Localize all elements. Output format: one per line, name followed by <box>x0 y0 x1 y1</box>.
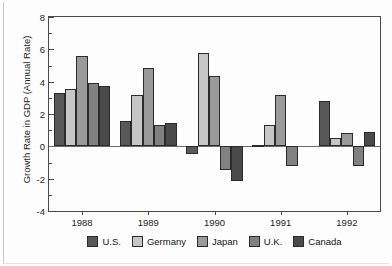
y-tick-minor <box>49 163 52 164</box>
legend-label: U.S. <box>102 236 120 247</box>
y-tick-minor <box>49 33 52 34</box>
y-tick-label: 6 <box>40 44 45 55</box>
legend-label: Germany <box>147 236 186 247</box>
bar <box>76 56 87 147</box>
y-tick-minor <box>49 66 52 67</box>
x-tick-label: 1991 <box>270 217 291 228</box>
bar <box>231 146 242 181</box>
x-tick <box>148 211 149 215</box>
bar <box>275 95 286 146</box>
x-tick <box>215 211 216 215</box>
bar <box>154 125 165 147</box>
legend-item-u-k[interactable]: U.K. <box>249 236 282 247</box>
legend-swatch-icon <box>132 236 143 247</box>
bar <box>120 121 131 146</box>
plot-area: -4-202468 19881989199019911992 <box>48 16 381 212</box>
x-tick-label: 1989 <box>138 217 159 228</box>
legend-item-canada[interactable]: Canada <box>293 236 341 247</box>
scan-left-rule <box>3 2 4 264</box>
y-tick-minor <box>49 195 52 196</box>
y-tick-minor <box>49 98 52 99</box>
clipped-page-text <box>18 0 318 9</box>
figure-container: Growth Rate in GDP (Annual Rate) -4-2024… <box>0 0 392 266</box>
legend-item-japan[interactable]: Japan <box>197 236 238 247</box>
x-tick-label: 1988 <box>72 217 93 228</box>
zero-baseline <box>49 146 380 147</box>
bar <box>286 146 297 165</box>
legend-item-u-s[interactable]: U.S. <box>87 236 120 247</box>
y-tick: 4 <box>49 82 54 83</box>
legend-swatch-icon <box>249 236 260 247</box>
bar <box>186 146 197 154</box>
x-tick <box>281 211 282 215</box>
bar <box>54 93 65 146</box>
bar <box>264 125 275 146</box>
legend-swatch-icon <box>197 236 208 247</box>
x-tick-label: 1992 <box>336 217 357 228</box>
y-axis-label: Growth Rate in GDP (Annual Rate) <box>21 10 32 210</box>
legend-label: Canada <box>308 236 341 247</box>
y-tick: 6 <box>49 49 54 50</box>
bar <box>252 145 263 147</box>
chart-legend: U.S.GermanyJapanU.K.Canada <box>48 236 381 247</box>
legend-swatch-icon <box>293 236 304 247</box>
y-tick: -2 <box>49 179 54 180</box>
bar <box>88 83 99 146</box>
y-tick-label: -2 <box>37 173 45 184</box>
bar <box>99 86 110 147</box>
y-tick-label: -4 <box>37 206 45 217</box>
y-tick: 8 <box>49 17 54 18</box>
bar <box>198 53 209 147</box>
x-tick <box>347 211 348 215</box>
bar <box>209 76 220 146</box>
bar <box>131 95 142 147</box>
legend-label: U.K. <box>264 236 282 247</box>
bar <box>330 138 341 146</box>
scan-bottom-rule <box>3 263 389 264</box>
x-tick <box>82 211 83 215</box>
y-tick-label: 8 <box>40 12 45 23</box>
x-tick-label: 1990 <box>204 217 225 228</box>
legend-label: Japan <box>212 236 238 247</box>
y-tick-minor <box>49 130 52 131</box>
legend-swatch-icon <box>87 236 98 247</box>
bar <box>143 68 154 146</box>
y-tick-label: 0 <box>40 141 45 152</box>
bar <box>319 101 330 146</box>
y-tick-label: 2 <box>40 109 45 120</box>
bar <box>65 89 76 146</box>
bar <box>353 146 364 165</box>
bar <box>220 146 231 169</box>
bar <box>341 133 352 146</box>
y-tick: -4 <box>49 211 54 212</box>
legend-item-germany[interactable]: Germany <box>132 236 186 247</box>
bar <box>165 123 176 146</box>
y-tick-label: 4 <box>40 76 45 87</box>
bar <box>364 132 375 147</box>
